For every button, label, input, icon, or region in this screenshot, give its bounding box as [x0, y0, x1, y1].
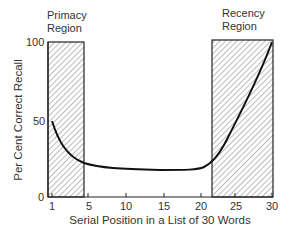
x-axis-title: Serial Position in a List of 30 Words	[69, 214, 251, 226]
x-tick-10: 10	[120, 200, 132, 212]
y-tick-100: 100	[26, 36, 44, 48]
x-tick-20: 20	[195, 200, 207, 212]
x-tick-25: 25	[230, 200, 242, 212]
y-tick-0: 0	[38, 191, 44, 203]
serial-position-chart: Primacy Region Recency Region 100 50 0 1…	[0, 0, 290, 228]
primacy-label-line2: Region	[47, 22, 82, 34]
x-tick-30: 30	[266, 200, 278, 212]
x-tick-5: 5	[86, 200, 92, 212]
y-axis-title: Per Cent Correct Recall	[12, 59, 24, 180]
x-tick-15: 15	[158, 200, 170, 212]
primacy-region: Primacy Region	[47, 9, 87, 197]
primacy-label-line1: Primacy	[47, 9, 87, 21]
recency-label-line1: Recency	[222, 7, 265, 19]
x-tick-1: 1	[49, 200, 55, 212]
y-tick-50: 50	[33, 115, 45, 127]
recency-label-line2: Region	[222, 20, 257, 32]
recency-region: Recency Region	[212, 7, 273, 197]
